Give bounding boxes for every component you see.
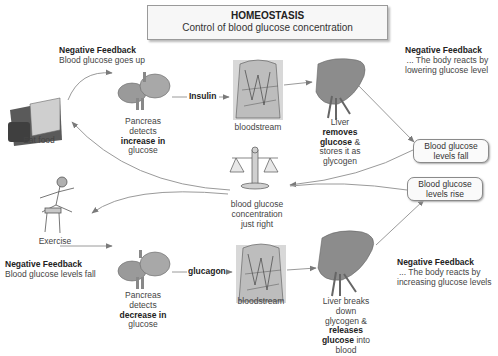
- feedback-top-left: Negative Feedback Blood glucose goes up: [59, 46, 145, 66]
- top-pancreas-caption: Pancreas detects increase in glucose: [113, 117, 173, 156]
- caption-line: glucose: [113, 146, 173, 156]
- balance-caption: blood glucose concentration just right: [222, 200, 292, 229]
- box-line: levels rise: [408, 190, 482, 200]
- caption-line: blood: [316, 346, 376, 356]
- glucose-rise-box: Blood glucose levels rise: [407, 177, 483, 201]
- feedback-top-right: Negative Feedback ... The body reacts by…: [405, 46, 488, 75]
- glucagon-label: glucagon: [188, 267, 226, 277]
- bottom-pancreas-caption: Pancreas detects decrease in glucose: [113, 291, 173, 330]
- caption-line: glycogen: [310, 157, 370, 167]
- glucose-fall-box: Blood glucose levels fall: [413, 139, 489, 163]
- bloodstream-torso-icon-bottom: [236, 244, 286, 303]
- bottom-liver-caption: Liver breaks down glycogen & releases gl…: [316, 297, 376, 356]
- title-box: HOMEOSTASIS Control of blood glucose con…: [147, 5, 388, 40]
- top-liver-caption: Liver removes glucose & stores it as gly…: [310, 118, 370, 167]
- caption-line: just right: [222, 220, 292, 230]
- feedback-line2: increasing glucose levels: [397, 278, 492, 288]
- bottom-bloodstream-label: bloodstream: [231, 297, 291, 307]
- title-heading: HOMEOSTASIS: [148, 10, 387, 22]
- feedback-bottom-right: Negative Feedback ... The body reacts by…: [397, 258, 492, 287]
- feedback-body: Blood glucose goes up: [59, 56, 145, 66]
- insulin-label: Insulin: [189, 92, 216, 102]
- eat-food-label: Eat food: [14, 136, 64, 146]
- pancreas-icon-bottom: [118, 250, 170, 289]
- bloodstream-torso-icon-top: [233, 60, 283, 120]
- feedback-line2: lowering glucose level: [405, 66, 488, 76]
- top-bloodstream-label: bloodstream: [228, 123, 288, 133]
- title-subheading: Control of blood glucose concentration: [148, 22, 387, 34]
- feedback-bottom-left: Negative Feedback Blood glucose levels f…: [5, 260, 96, 280]
- caption-bold: glucose: [320, 137, 352, 147]
- box-line: levels fall: [414, 152, 488, 162]
- caption-line: into: [354, 335, 370, 345]
- caption-line: glucose: [113, 320, 173, 330]
- liver-icon-bottom: [318, 231, 374, 296]
- caption-bold: glucose: [322, 335, 354, 345]
- pancreas-icon-top: [118, 72, 170, 110]
- liver-icon-top: [316, 59, 365, 120]
- feedback-body: Blood glucose levels fall: [5, 270, 96, 280]
- caption-line: &: [352, 137, 360, 147]
- balance-scales-icon: [230, 147, 278, 189]
- hurdler-icon: [40, 177, 74, 233]
- exercise-label: Exercise: [30, 237, 80, 247]
